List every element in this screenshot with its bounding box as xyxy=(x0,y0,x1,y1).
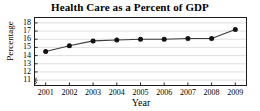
chart-container: Health Care as a Percent of GDP Percenta… xyxy=(0,0,260,111)
y-tick-label: 15 xyxy=(15,43,31,51)
x-tick-label: 2009 xyxy=(221,88,249,97)
data-point-marker xyxy=(233,27,238,32)
chart-title: Health Care as a Percent of GDP xyxy=(0,1,260,14)
y-tick-label: 18 xyxy=(15,19,31,27)
data-point-marker xyxy=(162,37,167,42)
y-axis-label: Percentage xyxy=(5,12,15,70)
x-axis-label: Year xyxy=(34,97,248,109)
y-tick-label: 14 xyxy=(15,52,31,60)
data-point-marker xyxy=(67,43,72,48)
data-point-marker xyxy=(91,38,96,43)
data-point-marker xyxy=(138,37,143,42)
x-tick-marks-group xyxy=(46,82,236,85)
axis-break-icon xyxy=(35,78,37,85)
data-point-marker xyxy=(114,38,119,43)
y-tick-label: 16 xyxy=(15,35,31,43)
y-tick-marks-group xyxy=(35,23,38,80)
y-tick-label: 13 xyxy=(15,60,31,68)
data-point-marker xyxy=(185,36,190,41)
y-tick-label: 11 xyxy=(15,76,31,84)
data-point-marker xyxy=(209,36,214,41)
data-point-marker xyxy=(43,49,48,54)
plot-svg xyxy=(35,18,246,85)
y-tick-label: 17 xyxy=(15,27,31,35)
y-tick-label: 12 xyxy=(15,68,31,76)
gridlines-group xyxy=(35,23,246,80)
plot-area xyxy=(34,17,247,86)
